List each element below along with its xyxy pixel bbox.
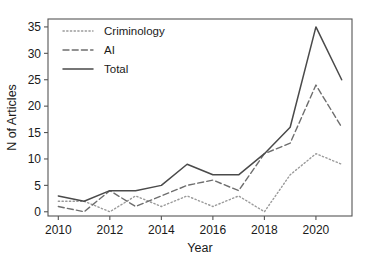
y-tick-label: 0: [34, 205, 41, 219]
x-tick-label: 2010: [45, 223, 72, 237]
y-tick-label: 15: [28, 126, 42, 140]
x-tick-label: 2020: [303, 223, 330, 237]
legend-label-ai: AI: [104, 44, 115, 56]
y-tick-label: 35: [28, 20, 42, 34]
y-axis-label: N of Articles: [5, 84, 19, 151]
x-tick-label: 2018: [251, 223, 278, 237]
x-tick-label: 2012: [96, 223, 123, 237]
y-tick-label: 10: [28, 152, 42, 166]
line-chart: 05101520253035 201020122014201620182020 …: [0, 0, 366, 268]
x-axis-label: Year: [187, 241, 212, 255]
y-tick-label: 25: [28, 73, 42, 87]
x-tick-label: 2016: [200, 223, 227, 237]
legend-label-total: Total: [104, 63, 128, 75]
y-tick-label: 5: [34, 179, 41, 193]
chart-figure: 05101520253035 201020122014201620182020 …: [0, 0, 366, 268]
y-tick-label: 20: [28, 99, 42, 113]
legend-label-criminology: Criminology: [104, 25, 165, 37]
x-tick-label: 2014: [148, 223, 175, 237]
y-tick-label: 30: [28, 47, 42, 61]
